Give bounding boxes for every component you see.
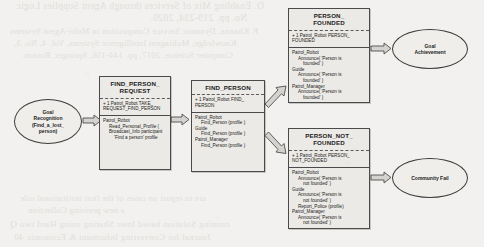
find-person-request-title: FIND_PERSON_ REQUEST	[100, 77, 170, 98]
community-fail-label: Community Fail	[408, 175, 452, 181]
person-not-founded-title-line-1: PERSON_NOT_	[291, 132, 367, 139]
find-person-body: Patrol_Robot Find_Person (profile ) Guid…	[192, 113, 264, 152]
find-person-request-title-line-2: REQUEST	[102, 87, 168, 94]
find-person-title-line-1: FIND_PERSON	[194, 84, 262, 91]
community-fail-line-1: Community Fail	[411, 175, 449, 181]
arrow-request-to-find	[171, 114, 189, 125]
person-founded-title-line-1: PERSON_	[291, 12, 367, 19]
person-not-founded-title: PERSON_NOT_ FOUNDED	[289, 129, 369, 150]
person-founded-title-line-2: FOUNDED	[291, 19, 367, 26]
person-founded-trigger-line-2: FOUNDED	[292, 38, 366, 44]
person-founded-body: Patrol_Robot Announce( 'Person is founde…	[289, 48, 369, 103]
find-person-request-body: Patrol_Robot Read_Personal_Profile ( Bro…	[100, 116, 170, 143]
diagram-canvas: Goal Recognition (Find_a_lost_ person) F…	[0, 0, 484, 247]
arrow-founded-to-goal-achievement	[371, 43, 391, 54]
person-founded-title: PERSON_ FOUNDED	[289, 9, 369, 30]
arrow-find-to-founded	[265, 86, 286, 108]
find-person-title: FIND_PERSON	[192, 81, 264, 94]
find-person-request-title-line-1: FIND_PERSON_	[102, 80, 168, 87]
find-person-trigger: + 1 Patrol_Robot FIND_ PERSON	[192, 95, 264, 111]
goal-recognition-line-4: person)	[32, 128, 64, 134]
person-not-founded-trigger-line-2: NOT_FOUNDED	[292, 158, 366, 164]
node-goal-recognition[interactable]: Goal Recognition (Find_a_lost_ person)	[14, 99, 82, 144]
arrow-not-founded-to-community-fail	[371, 172, 391, 183]
goal-achievement-line-2: Achievement	[414, 49, 445, 55]
node-find-person-request[interactable]: FIND_PERSON_ REQUEST + 1 Patrol_Robot TA…	[99, 76, 171, 170]
goal-recognition-line-3: (Find_a_lost_	[32, 122, 64, 128]
goal-achievement-label: Goal Achievement	[411, 43, 448, 55]
person-not-founded-title-line-2: FOUNDED	[291, 139, 367, 146]
node-person-founded[interactable]: PERSON_ FOUNDED + 1 Patrol_Robot PERSON_…	[288, 8, 370, 103]
arrow-find-to-not-founded	[265, 132, 286, 154]
person-not-founded-trigger: + 1 Patrol_Robot PERSON_ NOT_FOUNDED	[289, 151, 369, 167]
find-person-request-trigger: + 1 Patrol_Robot TAKE_ REQUEST_FIND_PERS…	[100, 99, 170, 115]
person-founded-trigger: + 1 Patrol_Robot PERSON_ FOUNDED	[289, 31, 369, 47]
node-person-not-founded[interactable]: PERSON_NOT_ FOUNDED + 1 Patrol_Robot PER…	[288, 128, 370, 229]
person-not-founded-body-line-10: not founded' )	[292, 220, 366, 226]
person-founded-body-line-9: founded' )	[292, 95, 366, 101]
goal-recognition-line-2: Recognition	[32, 115, 64, 121]
node-find-person[interactable]: FIND_PERSON + 1 Patrol_Robot FIND_ PERSO…	[191, 80, 265, 172]
find-person-request-body-line-4: 'Find a person' profile	[103, 135, 167, 141]
find-person-body-line-6: Find_Person (profile )	[195, 143, 261, 149]
goal-recognition-label: Goal Recognition (Find_a_lost_ person)	[29, 109, 67, 134]
person-not-founded-body: Patrol_Robot Announce( 'Person is not fo…	[289, 168, 369, 229]
node-goal-achievement[interactable]: Goal Achievement	[392, 29, 468, 69]
find-person-request-body-line-3: Broadcast_Info participant	[103, 129, 167, 135]
node-community-fail[interactable]: Community Fail	[392, 158, 468, 198]
find-person-request-trigger-line-2: REQUEST_FIND_PERSON	[103, 106, 167, 112]
find-person-trigger-line-2: PERSON	[195, 103, 261, 109]
